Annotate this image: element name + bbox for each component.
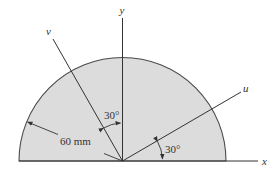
angle-label-x-u: 30° <box>165 143 180 155</box>
u-axis-label: u <box>243 82 249 94</box>
y-axis-label: y <box>119 4 125 16</box>
radius-dimension-label: 60 mm <box>60 135 91 147</box>
angle-label-v-y: 30° <box>104 109 119 121</box>
x-axis-label: x <box>261 155 267 167</box>
semicircle-diagram: x y v u 60 mm 30° 30° <box>0 0 280 173</box>
v-axis-label: v <box>46 25 51 37</box>
